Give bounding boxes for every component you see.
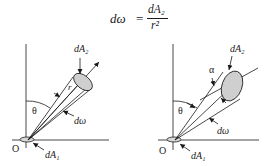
left-area1-ellipse — [20, 137, 34, 142]
left-label-solid-angle: dω — [74, 115, 86, 126]
left-label-area2: dA₂ — [74, 43, 89, 54]
right-theta-tick — [187, 103, 195, 108]
left-labels: dA₂ r θ dω O dA₁ — [12, 43, 89, 160]
right-area2-leader — [229, 56, 232, 70]
right-label-area1: dA₁ — [191, 150, 206, 161]
right-label-alpha: α — [209, 64, 215, 75]
left-diagram — [12, 44, 109, 150]
left-dw-leader — [63, 111, 74, 116]
left-label-radius: r — [68, 82, 72, 92]
right-cone-edge-lower — [175, 99, 240, 140]
left-area2-disk — [70, 70, 95, 94]
left-label-area1: dA₁ — [45, 149, 60, 160]
right-label-solid-angle: dω — [217, 125, 229, 136]
left-r-tick — [54, 93, 60, 97]
right-label-theta: θ — [178, 105, 183, 116]
left-label-theta: θ — [32, 105, 37, 116]
right-dw-leader — [209, 118, 218, 124]
left-label-origin: O — [12, 143, 19, 154]
right-alpha-arrow — [212, 78, 214, 86]
left-normal-ray — [28, 62, 99, 140]
left-theta-arc — [26, 101, 50, 108]
left-area1-leader — [33, 143, 44, 150]
right-label-area2: dA₂ — [230, 43, 245, 54]
right-label-origin: O — [159, 145, 166, 156]
right-area1-leader — [180, 144, 190, 151]
solid-angle-diagrams: dA₂ r θ dω O dA₁ dA₂ α θ dω O dA₁ — [0, 0, 269, 166]
right-diagram — [158, 44, 259, 151]
